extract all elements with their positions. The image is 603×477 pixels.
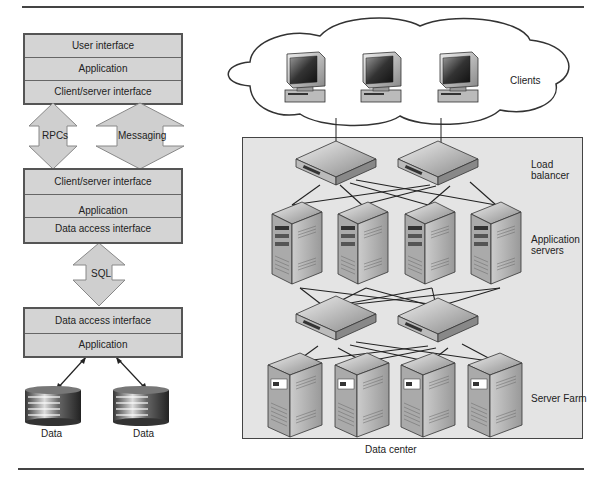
app-server-icon-4 — [471, 202, 521, 284]
clients-label: Clients — [510, 75, 541, 86]
network-diagram — [0, 0, 603, 477]
app-server-icon-3 — [405, 202, 455, 284]
app-server-icon-1 — [272, 202, 322, 284]
client-computer-icon-1 — [285, 52, 325, 102]
farm-server-icon-4 — [468, 353, 522, 437]
app-servers-label-line2: servers — [531, 245, 564, 256]
app-servers-label-line1: Application — [531, 234, 580, 245]
farm-server-icon-1 — [268, 353, 322, 437]
data-center-label: Data center — [365, 444, 417, 455]
server-farm-label: Server Farm — [531, 393, 587, 404]
load-balancer-label-line1: Load — [531, 159, 553, 170]
farm-server-icon-3 — [401, 353, 455, 437]
app-server-icon-2 — [338, 202, 388, 284]
client-computer-icon-3 — [438, 52, 478, 102]
load-balancer-icon-2 — [398, 141, 478, 185]
client-computer-icon-2 — [361, 52, 401, 102]
load-balancer-icon-1 — [296, 141, 376, 185]
load-balancer-icon-4 — [398, 298, 478, 342]
farm-server-icon-2 — [335, 353, 389, 437]
load-balancer-label-line2: balancer — [531, 170, 569, 181]
